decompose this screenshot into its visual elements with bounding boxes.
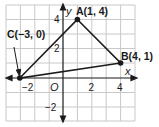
y-axis-label: y bbox=[65, 5, 73, 17]
point-a-label: A(1, 4) bbox=[76, 5, 108, 17]
y-tick-2: 2 bbox=[54, 43, 60, 54]
y-tick-neg2: −2 bbox=[45, 102, 57, 113]
origin-label: O bbox=[50, 81, 59, 93]
y-tick-4: 4 bbox=[54, 14, 60, 25]
x-axis bbox=[6, 76, 137, 81]
point-a bbox=[75, 17, 81, 23]
point-c-label: C(−3, 0) bbox=[7, 28, 45, 40]
coordinate-plane: y x O −2 2 4 4 2 −2 A(1, 4) B(4, 1) C(−3… bbox=[0, 0, 159, 127]
x-tick-4: 4 bbox=[117, 82, 123, 93]
x-tick-neg2: −2 bbox=[22, 82, 34, 93]
x-axis-label: x bbox=[124, 65, 131, 77]
leader-arrow-c bbox=[14, 47, 21, 76]
point-b-label: B(4, 1) bbox=[121, 50, 153, 62]
x-tick-2: 2 bbox=[89, 82, 95, 93]
